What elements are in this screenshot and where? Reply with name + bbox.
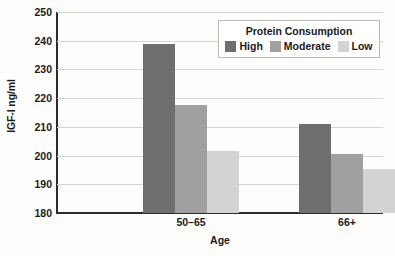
y-tick-label: 230 [34,63,52,75]
bar [299,124,331,213]
y-tick-label: 180 [34,207,52,219]
legend-item: Moderate [270,40,331,52]
legend-label: High [239,40,262,52]
y-axis-title: IGF-I ng/ml [0,0,22,212]
y-tick-label: 190 [34,178,52,190]
y-tick-label: 210 [34,121,52,133]
legend-title: Protein Consumption [223,25,375,37]
legend-swatch-icon [270,41,281,52]
legend-items: HighModerateLow [223,40,375,52]
x-axis-title: Age [57,234,383,246]
y-axis-tick-labels: 180190200210220230240250 [22,12,56,213]
y-tick-label: 240 [34,35,52,47]
legend-swatch-icon [338,41,349,52]
y-axis-title-text: IGF-I ng/ml [5,79,17,133]
y-tick-label: 220 [34,92,52,104]
bar [207,151,239,213]
y-tick-label: 200 [34,150,52,162]
bar [331,154,363,213]
legend-label: Low [352,40,373,52]
x-tick-label: 50–65 [176,216,205,228]
legend-swatch-icon [225,41,236,52]
x-axis-tick-labels: 50–6566+ [57,216,383,232]
legend-item: Low [338,40,373,52]
legend-label: Moderate [284,40,331,52]
bar [143,44,175,213]
legend-item: High [225,40,262,52]
bar [363,169,395,214]
bar [175,105,207,213]
legend: Protein Consumption HighModerateLow [218,20,380,58]
y-tick-label: 250 [34,6,52,18]
x-tick-label: 66+ [338,216,356,228]
